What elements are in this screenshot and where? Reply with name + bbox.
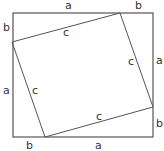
label-bottom-b: b (26, 139, 33, 151)
label-left-a: a (3, 84, 10, 97)
outer-square (13, 13, 153, 137)
pythagorean-square-diagram: abbaabbacccc (0, 0, 164, 151)
label-inner-top-c: c (63, 26, 69, 39)
label-top-a: a (65, 0, 72, 12)
label-top-b: b (135, 0, 142, 12)
label-right-a: a (156, 54, 163, 67)
label-inner-bottom-c: c (96, 110, 102, 123)
label-right-b: b (156, 117, 163, 130)
label-inner-left-c: c (32, 84, 38, 97)
label-inner-right-c: c (128, 55, 134, 68)
inner-tilted-square (12, 13, 153, 137)
label-bottom-a: a (95, 139, 102, 151)
label-left-b: b (3, 21, 10, 34)
